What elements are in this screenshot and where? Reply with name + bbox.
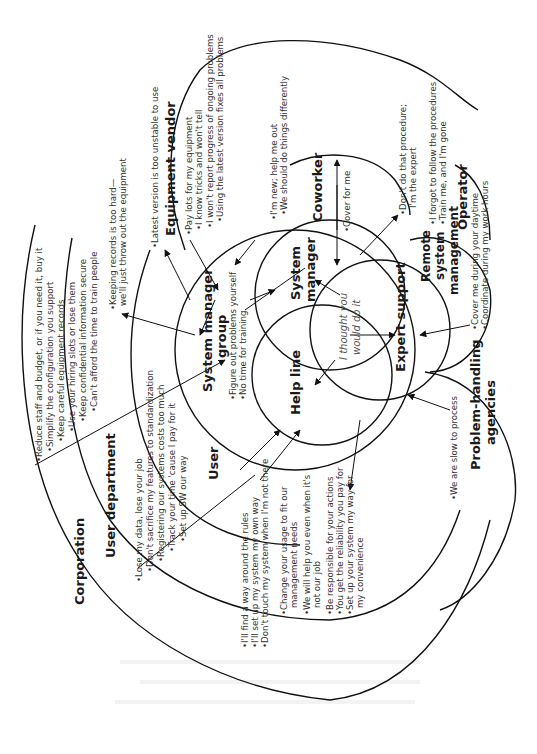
remote-label-1: Remote	[419, 230, 433, 282]
svg-text:•No time for training: •No time for training	[238, 311, 248, 400]
expert-item-1: •Don't do that procedure;	[398, 104, 408, 215]
svg-text:•Using the latest version fixe: •Using the latest version fixes all prob…	[215, 36, 225, 222]
user-department-label: User department	[103, 433, 118, 558]
svg-text:•I'm new; help me out: •I'm new; help me out	[269, 123, 279, 220]
svg-text:•Set up your system my way for: •Set up your system my way for	[345, 475, 355, 615]
svg-text:•Keep confidential information: •Keep confidential information secure	[78, 259, 88, 422]
svg-text:•Figure out problems yourself: •Figure out problems yourself	[228, 271, 238, 400]
svg-text:•Can't afford the time to trai: •Can't afford the time to train people	[89, 252, 99, 412]
help-line-circle	[252, 305, 392, 445]
svg-text:•Change your usage to fit our: •Change your usage to fit our	[279, 486, 289, 615]
svg-text:•You get the reliability you p: •You get the reliability you pay for	[335, 467, 345, 615]
svg-text:my convenience: my convenience	[355, 537, 365, 608]
svg-text:•Lose my data, lose your job: •Lose my data, lose your job	[134, 458, 144, 582]
svg-text:•Be responsible for your actio: •Be responsible for your actions	[325, 476, 335, 615]
stakeholder-diagram: Corporation •Reduce staff and budget, or…	[0, 0, 537, 754]
svg-text:we'll just throw out the equip: we'll just throw out the equipment	[118, 157, 128, 306]
svg-text:•Pay lots for my equipment: •Pay lots for my equipment	[184, 116, 194, 235]
svg-text:•I know tricks and won't tell: •I know tricks and won't tell	[194, 109, 204, 230]
to-user-items: •Change your usage to fit our management…	[279, 467, 365, 615]
svg-text:•I'll find a way around the ru: •I'll find a way around the rules	[240, 512, 250, 648]
user-label: User	[206, 446, 221, 480]
remote-label-3: management	[447, 206, 461, 295]
system-manager-group-label: System manager	[200, 268, 215, 392]
svg-text:•I'll set up my system my own: •I'll set up my system my own way	[250, 497, 260, 648]
svg-text:•Don't touch my system when I': •Don't touch my system when I'm not ther…	[260, 459, 270, 648]
remote-items: •Cover me during your daytime •Coordinat…	[470, 180, 490, 330]
svg-text:•Use your hiring slots or lose: •Use your hiring slots or lose them	[67, 282, 77, 432]
system-manager-label-1: System	[288, 246, 303, 300]
cover-for-me: •Cover for me	[342, 171, 352, 232]
coworker-items: •I'm new; help me out •We should do thin…	[269, 76, 289, 220]
help-line-label: Help line	[288, 350, 303, 415]
svg-text:•I won't report progress of on: •I won't report progress of ongoing prob…	[205, 34, 215, 228]
svg-text:•Set up SW our way: •Set up SW our way	[178, 455, 188, 542]
remote-label-2: system	[433, 232, 447, 281]
equipment-vendor-items: •Pay lots for my equipment •I know trick…	[184, 34, 225, 235]
svg-text:•We should do things different: •We should do things differently	[279, 76, 289, 215]
svg-text:•Don't sacrifice my features t: •Don't sacrifice my features to standard…	[145, 370, 155, 572]
equipment-vendor-label: Equipment vendor	[163, 101, 178, 236]
svg-text:•Track your time 'cause I pay: •Track your time 'cause I pay for it	[167, 402, 177, 552]
expert-item-2: I'm the expert	[408, 147, 418, 208]
system-manager-label-2: manager	[303, 237, 318, 302]
svg-text:•Registering our systems costs: •Registering our systems costs too much	[156, 385, 166, 562]
problem-handling-label-1: Problem-handling	[468, 340, 483, 470]
system-manager-circle	[255, 220, 405, 370]
svg-text:•Keep careful equipment record: •Keep careful equipment records	[56, 299, 66, 442]
vendor-top-item: •Latest version is too unstable to use	[150, 87, 160, 248]
svg-text:•Cover me during your daytime: •Cover me during your daytime	[470, 193, 480, 330]
svg-text:•We will help you even when it: •We will help you even when it's	[302, 474, 312, 615]
expert-support-label: Expert support	[393, 262, 408, 372]
coworker-label: Coworker	[310, 152, 325, 222]
svg-text:•Reduce staff and budget, or i: •Reduce staff and budget, or if you need…	[34, 247, 44, 462]
svg-text:•Simplify the configuration yo: •Simplify the configuration you support	[45, 281, 55, 452]
problem-handling-label-2: agencies	[483, 380, 498, 445]
system-manager-group-label-2: group	[214, 315, 229, 358]
system-manager-group-items: •Figure out problems yourself •No time f…	[228, 271, 248, 400]
svg-text:management needs: management needs	[289, 521, 299, 608]
bleed-through	[115, 660, 420, 704]
operator-items: •I forgot to follow the procedures •Trai…	[428, 81, 448, 225]
user-department-items: •Lose my data, lose your job •Don't sacr…	[134, 370, 188, 582]
svg-text:•Keeping records is too hard—: •Keeping records is too hard—	[108, 178, 118, 310]
svg-text:•Coordinate during my work hou: •Coordinate during my work hours	[480, 180, 490, 330]
center-text-2: would do it	[351, 299, 362, 355]
svg-text:•I forgot to follow the proced: •I forgot to follow the procedures	[428, 81, 438, 225]
user-items: •I'll find a way around the rules •I'll …	[240, 459, 270, 648]
corporation-label: Corporation	[72, 518, 87, 605]
center-text-1: I thought you	[338, 293, 349, 360]
svg-text:not our job: not our job	[312, 561, 322, 608]
problem-handling-item: •We are slow to process	[449, 396, 459, 500]
records-items: •Keeping records is too hard— we'll just…	[108, 157, 128, 310]
